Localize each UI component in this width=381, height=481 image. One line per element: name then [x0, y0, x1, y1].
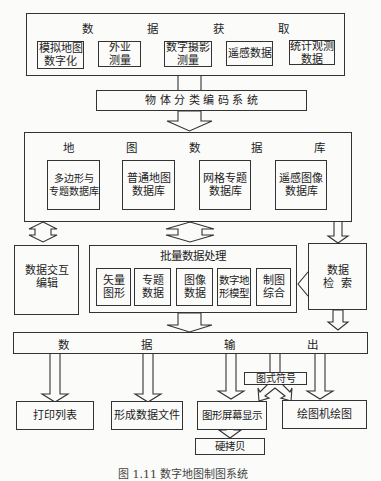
label-line: 测量 — [177, 54, 199, 67]
label-line: 数据 — [142, 287, 164, 300]
label: 图形屏幕显示 — [202, 409, 262, 422]
source-digital-photogrammetry: 数字摄影 测量 — [164, 41, 212, 67]
label: 绘图机绘图 — [297, 408, 352, 421]
label-line: 普通地图 — [127, 172, 171, 185]
label-line: 数据库 — [132, 185, 165, 198]
db-polygon-thematic: 多边形与 专题数据库 — [47, 160, 100, 210]
label-line: 网格专题 — [203, 172, 247, 185]
title-char: 库 — [314, 139, 325, 155]
source-field-survey: 外业 测量 — [98, 41, 141, 67]
label-line: 矢量 — [103, 274, 125, 287]
db-grid-thematic: 网格专题 数据库 — [199, 160, 251, 210]
source-analog-map-digitizing: 模拟地图 数字化 — [37, 41, 84, 69]
batch-dem: 数字地 形模型 — [217, 268, 251, 306]
label-line: 数据库 — [209, 185, 242, 198]
batch-vector-graphics: 矢量 图形 — [96, 268, 131, 306]
batch-title: 批量数据处理 — [90, 250, 296, 263]
data-acquisition-title: 数 据 获 取 — [82, 20, 289, 36]
label-line: 数字化 — [44, 55, 77, 68]
output-hardcopy: 硬拷贝 — [195, 438, 265, 455]
title-char: 取 — [278, 20, 289, 36]
title-char: 数 — [82, 20, 93, 36]
figure-caption: 图 1.11 数字地图制图系统 — [118, 465, 249, 481]
label-line: 制图 — [263, 274, 285, 287]
label: 打印列表 — [33, 409, 77, 422]
title-char: 据 — [141, 336, 152, 352]
batch-image-data: 图像 数据 — [176, 268, 213, 306]
batch-cartographic-generalization: 制图 综合 — [256, 268, 291, 306]
label-line: 形模型 — [219, 287, 249, 300]
db-general-map: 普通地图 数据库 — [122, 160, 175, 210]
title-char: 据 — [251, 139, 262, 155]
label-line: 综合 — [263, 287, 285, 300]
title-char: 地 — [63, 139, 74, 155]
title-char: 据 — [147, 20, 158, 36]
label-line: 测量 — [109, 54, 131, 67]
batch-thematic-data: 专题 数据 — [134, 268, 171, 306]
label-line: 专题 — [142, 274, 164, 287]
label-line: 外业 — [109, 41, 131, 54]
map-database-title: 地 图 数 据 库 — [63, 139, 325, 155]
label-line: 数据库 — [285, 185, 318, 198]
output-data-file: 形成数据文件 — [111, 401, 183, 430]
label-line: 多边形与 — [54, 172, 94, 185]
label-line: 遥感图像 — [279, 172, 323, 185]
output-screen-display: 图形屏幕显示 — [197, 401, 267, 430]
label-line: 数据 — [301, 53, 323, 66]
label-line: 遥感数据 — [228, 47, 272, 60]
label-line: 数字地 — [219, 274, 249, 287]
label-line: 图形 — [103, 287, 125, 300]
title-char: 输 — [224, 336, 235, 352]
source-statistical-observation: 统计观测 数据 — [289, 40, 335, 65]
title-char: 数 — [58, 336, 69, 352]
title-char: 出 — [307, 336, 318, 352]
title-char: 获 — [213, 20, 224, 36]
map-symbols: 图式符号 — [244, 372, 307, 385]
label-line: 检 索 — [323, 277, 352, 290]
label-line: 数据 — [327, 264, 349, 277]
label-line: 模拟地图 — [39, 42, 83, 55]
label-line: 数字摄影 — [166, 41, 210, 54]
label-line: 数据交互 — [25, 264, 69, 277]
title-char: 图 — [126, 139, 137, 155]
label: 形成数据文件 — [114, 409, 180, 422]
data-interactive-edit: 数据交互 编辑 — [14, 245, 79, 315]
data-output-block: 数 据 输 出 — [13, 332, 368, 354]
object-classification-coding-system: 物 体 分 类 编 码 系 统 — [96, 90, 307, 111]
db-remote-sensing-image: 遥感图像 数据库 — [275, 160, 327, 210]
label-line: 编辑 — [36, 277, 58, 290]
output-plotter: 绘图机绘图 — [282, 400, 367, 429]
label-line: 图像 — [184, 274, 206, 287]
source-remote-sensing: 遥感数据 — [226, 41, 273, 66]
label-line: 统计观测 — [290, 40, 334, 53]
label-line: 专题数据库 — [49, 185, 99, 198]
label: 硬拷贝 — [215, 440, 245, 453]
data-output-title: 数 据 输 出 — [58, 336, 318, 352]
label: 图式符号 — [256, 372, 296, 385]
label-line: 数据 — [184, 287, 206, 300]
label: 物 体 分 类 编 码 系 统 — [145, 94, 257, 107]
title-char: 数 — [189, 139, 200, 155]
data-retrieval: 数据 检 索 — [308, 243, 367, 310]
output-print-list: 打印列表 — [16, 401, 94, 430]
